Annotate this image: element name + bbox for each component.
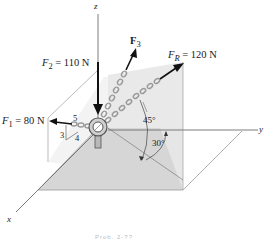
f1-arrowhead bbox=[49, 118, 57, 125]
slope-vert-label: 3 bbox=[60, 131, 64, 140]
f3-label: F3 bbox=[130, 36, 141, 49]
f1-label: F1 = 80 N bbox=[2, 116, 45, 129]
floor-edge-right bbox=[183, 131, 242, 190]
angle-30-label: 30° bbox=[152, 139, 165, 148]
f2-label: F2 = 110 N bbox=[42, 58, 89, 71]
angle-45-label: 45° bbox=[143, 116, 156, 125]
slope-horiz-label: 4 bbox=[75, 134, 79, 143]
fr-label: FR = 120 N bbox=[168, 50, 217, 63]
f3-arrowhead bbox=[130, 48, 137, 58]
y-axis-label: y bbox=[259, 125, 263, 134]
x-axis-label: x bbox=[7, 215, 11, 224]
figure-caption: Prob. 2-?? bbox=[95, 234, 133, 240]
z-axis-label: z bbox=[94, 2, 98, 11]
f1-arrow-shaft bbox=[55, 122, 72, 124]
f3-arrow-shaft bbox=[126, 55, 133, 70]
slope-hyp-label: 5 bbox=[73, 114, 77, 123]
